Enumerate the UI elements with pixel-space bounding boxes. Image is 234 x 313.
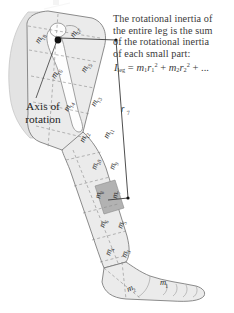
equation-plus-2: + <box>192 62 198 73</box>
caption-line-4: of each small part: <box>113 48 234 60</box>
equation-plus-1: + <box>160 62 166 73</box>
mass-label-m1-sub: 1 <box>165 283 168 289</box>
equation-term1-r-sup: 2 <box>154 61 157 68</box>
equation-ellipsis: ... <box>201 62 209 73</box>
equation-term2-r-sup: 2 <box>187 61 190 68</box>
equation-term1-m: m <box>136 62 144 73</box>
caption-line-1: The rotational inertia of <box>113 13 234 25</box>
caption-line-3: of the rotational inertia <box>113 36 234 48</box>
caption-line-2: the entire leg is the sum <box>113 25 234 37</box>
equation-lhs-sub: leg <box>118 66 126 73</box>
caption-text: The rotational inertia of the entire leg… <box>113 13 234 59</box>
axis-label-line-2: rotation <box>4 113 82 126</box>
equation-equals: = <box>128 62 134 73</box>
axis-of-rotation-label: Axis of rotation <box>4 100 82 127</box>
inertia-equation: Ileg = m1r12 + m2r22 + ... <box>114 61 209 73</box>
axis-label-line-1: Axis of <box>4 100 82 113</box>
